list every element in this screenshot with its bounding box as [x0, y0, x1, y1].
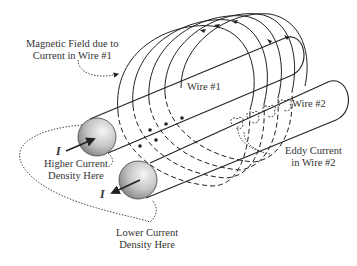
magnetic-field-label-line1: Magnetic Field due to	[26, 38, 118, 50]
lower-current-density-label: Lower Current Density Here	[116, 227, 178, 251]
current-symbol-2: I	[100, 188, 105, 200]
lower-current-label-line2: Density Here	[116, 239, 178, 251]
magnetic-field-lines	[118, 14, 308, 186]
wire-2-label: Wire #2	[292, 98, 326, 110]
eddy-current-label: Eddy Current in Wire #2	[285, 145, 342, 169]
wire-1-label: Wire #1	[187, 81, 221, 93]
wire-1-end-sphere	[78, 118, 116, 156]
magnetic-field-label-line2: Current in Wire #1	[26, 50, 118, 62]
eddy-current-label-line1: Eddy Current	[285, 145, 342, 157]
magnetic-field-label: Magnetic Field due to Current in Wire #1	[26, 38, 118, 62]
current-symbol-1: I	[56, 145, 61, 157]
higher-current-label-line1: Higher Current	[44, 158, 108, 170]
higher-current-label-line2: Density Here	[44, 170, 108, 182]
higher-current-density-label: Higher Current Density Here	[44, 158, 108, 182]
wire-1	[90, 37, 304, 153]
lower-current-label-line1: Lower Current	[116, 227, 178, 239]
eddy-current-label-line2: in Wire #2	[285, 157, 342, 169]
wire-2-end-sphere	[119, 161, 157, 199]
eddy-currents	[231, 99, 292, 129]
